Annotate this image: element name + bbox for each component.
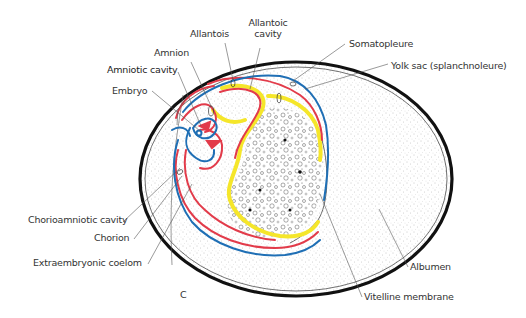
label-amnion: Amnion: [154, 47, 189, 58]
label-yolk-sac: Yolk sac (splanchnoleure): [391, 60, 507, 71]
label-allantoic-cavity-line1: Allantoic: [246, 17, 290, 28]
label-allantois: Allantois: [190, 28, 229, 39]
label-embryo: Embryo: [112, 85, 147, 96]
label-chorioamniotic-cavity: Chorioamniotic cavity: [28, 214, 127, 225]
label-amniotic-cavity: Amniotic cavity: [107, 64, 178, 75]
label-vitelline-membrane: Vitelline membrane: [364, 291, 454, 302]
label-extraembryonic-coelom: Extraembryonic coelom: [33, 257, 142, 268]
label-somatopleure: Somatopleure: [349, 38, 413, 49]
label-chorion: Chorion: [94, 232, 129, 243]
label-albumen: Albumen: [410, 261, 451, 272]
label-allantoic-cavity-line2: cavity: [246, 28, 290, 39]
panel-letter: C: [180, 289, 186, 300]
label-allantoic-cavity: Allantoic cavity: [246, 17, 290, 39]
